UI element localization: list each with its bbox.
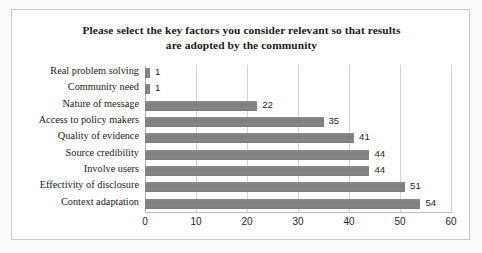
bar-value-label: 1 bbox=[155, 82, 160, 93]
category-label: Nature of message bbox=[17, 98, 145, 109]
bar-value-label: 41 bbox=[359, 131, 370, 142]
chart-title-line-1: Please select the key factors you consid… bbox=[12, 23, 471, 38]
x-tick-label: 40 bbox=[343, 216, 354, 227]
bar-row: 44 bbox=[145, 163, 451, 179]
x-tick-label: 50 bbox=[394, 216, 405, 227]
bar-row: 1 bbox=[145, 65, 451, 81]
bar-value-label: 51 bbox=[410, 180, 421, 191]
bar-value-label: 35 bbox=[329, 115, 340, 126]
plot-area: 1 1 22 35 41 44 bbox=[145, 65, 451, 212]
category-label: Quality of evidence bbox=[17, 130, 145, 141]
category-label: Context adaptation bbox=[17, 196, 145, 207]
x-tick-label: 20 bbox=[241, 216, 252, 227]
x-tick-label: 0 bbox=[142, 216, 148, 227]
x-axis-line bbox=[145, 212, 452, 213]
category-label: Real problem solving bbox=[17, 65, 145, 76]
bar-value-label: 22 bbox=[262, 99, 273, 110]
category-label: Source credibility bbox=[17, 147, 145, 158]
bar bbox=[145, 101, 257, 111]
screenshot-root: Please select the key factors you consid… bbox=[0, 0, 482, 253]
bar-row: 41 bbox=[145, 130, 451, 146]
bar bbox=[145, 84, 150, 94]
x-tick-label: 30 bbox=[292, 216, 303, 227]
bar bbox=[145, 133, 354, 143]
chart-title: Please select the key factors you consid… bbox=[12, 23, 471, 53]
bar bbox=[145, 166, 369, 176]
bar-value-label: 44 bbox=[374, 148, 385, 159]
category-label: Access to policy makers bbox=[17, 114, 145, 125]
bar bbox=[145, 117, 324, 127]
category-label: Involve users bbox=[17, 163, 145, 174]
x-axis-labels: 0 10 20 30 40 50 60 bbox=[145, 216, 451, 232]
bar-row: 35 bbox=[145, 114, 451, 130]
bar-row: 44 bbox=[145, 147, 451, 163]
category-label: Effectivity of disclosure bbox=[17, 179, 145, 190]
x-tick-label: 60 bbox=[445, 216, 456, 227]
chart-frame: Please select the key factors you consid… bbox=[11, 9, 470, 240]
category-axis: Real problem solving Community need Natu… bbox=[12, 65, 145, 212]
bar-row: 1 bbox=[145, 81, 451, 97]
chart-title-line-2: are adopted by the community bbox=[12, 38, 471, 53]
bar bbox=[145, 68, 150, 78]
category-label: Community need bbox=[17, 81, 145, 92]
bar bbox=[145, 182, 405, 192]
bar-value-label: 44 bbox=[374, 164, 385, 175]
bar-value-label: 54 bbox=[425, 197, 436, 208]
bar bbox=[145, 150, 369, 160]
x-tick-label: 10 bbox=[190, 216, 201, 227]
bar-row: 54 bbox=[145, 196, 451, 212]
bar bbox=[145, 199, 420, 209]
gridline-60 bbox=[451, 65, 452, 212]
bar-row: 51 bbox=[145, 179, 451, 195]
bar-value-label: 1 bbox=[155, 66, 160, 77]
bar-row: 22 bbox=[145, 98, 451, 114]
